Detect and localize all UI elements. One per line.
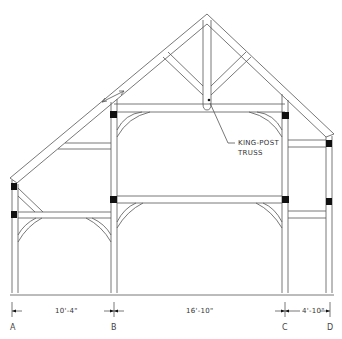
grid-label-C: C: [282, 323, 288, 332]
dimension-C-D: 4'-10": [302, 307, 325, 315]
knee-braces: [18, 112, 282, 242]
king-post-struts: [163, 52, 251, 95]
grid-label-A: A: [10, 323, 16, 332]
king-post-pin: [208, 99, 211, 102]
joint-blocks: [11, 111, 332, 218]
joint-C-top: [282, 112, 289, 119]
dimension-B-C: 16'-10": [186, 307, 214, 315]
middle-lower-beam: [117, 196, 282, 203]
joint-D-top: [326, 140, 332, 147]
joint-A-top: [11, 183, 17, 190]
joint-A-mid: [11, 211, 17, 218]
callout-label-line1: KING-POST: [238, 139, 279, 147]
post-D: [326, 136, 332, 293]
joint-B-top: [110, 111, 117, 118]
post-A: [12, 180, 18, 293]
right-bay-lower-girt: [288, 211, 326, 218]
king-post-callout: KING-POST TRUSS: [210, 103, 279, 157]
left-bay-lower-beam: [18, 212, 111, 218]
dimension-A-B: 10'-4": [55, 307, 78, 315]
grid-label-D: D: [327, 323, 333, 332]
right-rafter: [207, 14, 334, 137]
callout-label-line2: TRUSS: [237, 149, 263, 157]
grid-label-B: B: [111, 323, 117, 332]
right-bay-upper-girt: [288, 140, 326, 147]
joint-C-mid: [282, 196, 289, 203]
left-bay-upper-girt: [58, 143, 111, 149]
dimension-line: 10'-4" 16'-10" 4'-10": [12, 302, 330, 317]
timber-frame-drawing: KING-POST TRUSS 10'-4" 16'-10" 4'-10" A …: [0, 0, 342, 339]
post-C: [282, 94, 288, 293]
joint-D-mid: [326, 198, 332, 205]
joint-B-mid: [110, 196, 117, 203]
king-post: [203, 20, 211, 110]
grid-labels: A B C D: [10, 323, 333, 332]
upper-tie-beam: [114, 104, 285, 112]
